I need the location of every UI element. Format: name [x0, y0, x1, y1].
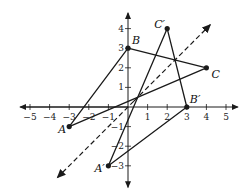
x-tick-label: −1: [102, 112, 115, 122]
y-tick-label: 2: [118, 63, 124, 73]
point-label-b: B: [131, 34, 140, 47]
y-tick-label: 4: [118, 24, 124, 34]
y-tick-label: 1: [118, 82, 124, 92]
point-b: [125, 46, 130, 51]
x-tick-label: −4: [43, 112, 57, 122]
coordinate-diagram: −5−4−3−2−112345−3−2−11234 ABCA′B′C′: [0, 0, 252, 196]
point-label-c: C: [211, 68, 220, 81]
point-label-a: A: [57, 123, 66, 136]
point-b-prime: [184, 104, 189, 109]
x-tick-label: 5: [223, 112, 229, 122]
point-label-b-prime: B′: [189, 93, 201, 106]
x-tick-label: 3: [184, 112, 190, 122]
point-label-a-prime: A′: [93, 162, 105, 175]
axes: [20, 13, 238, 187]
point-a-prime: [106, 163, 111, 168]
point-label-c-prime: C′: [154, 18, 165, 31]
point-a: [67, 124, 72, 129]
reflection-line-y-equals-x: [57, 25, 210, 178]
x-tick-label: 4: [204, 112, 210, 122]
y-tick-label: 3: [118, 43, 124, 53]
x-tick-label: −5: [23, 112, 37, 122]
coordinate-plane: −5−4−3−2−112345−3−2−11234 ABCA′B′C′: [0, 0, 252, 196]
x-tick-label: 1: [145, 112, 151, 122]
dashed-line-upper: [134, 25, 210, 101]
y-tick-label: −1: [111, 122, 124, 132]
point-c: [204, 65, 209, 70]
point-c-prime: [165, 26, 170, 31]
